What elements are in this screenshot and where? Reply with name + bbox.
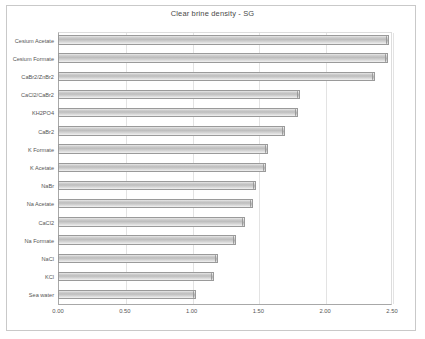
bar-row (58, 250, 392, 268)
value-tick-label: 1.00 (186, 308, 197, 314)
bar-row (58, 287, 392, 305)
category-label: K Formate (28, 147, 54, 154)
bar (58, 235, 236, 244)
bar-row (58, 178, 392, 196)
bar-row (58, 232, 392, 250)
bar-row (58, 196, 392, 214)
bar (58, 90, 300, 99)
value-tick-label: 0.50 (119, 308, 130, 314)
category-label: Na Formate (24, 238, 54, 245)
bar (58, 53, 388, 62)
bar (58, 181, 256, 190)
bar (58, 108, 298, 117)
bar-row (58, 141, 392, 159)
bar-row (58, 269, 392, 287)
bar-row (58, 214, 392, 232)
bar (58, 35, 389, 44)
bars-layer (58, 32, 392, 305)
category-label: KH2PO4 (32, 110, 54, 117)
bar-row (58, 50, 392, 68)
category-label: CaCl2 (38, 220, 54, 227)
bar (58, 254, 218, 263)
category-label: Cesium Acetate (15, 38, 54, 45)
bar (58, 163, 266, 172)
bar-row (58, 87, 392, 105)
category-label: Sea water (29, 292, 54, 299)
bar (58, 290, 196, 299)
bar-row (58, 123, 392, 141)
category-label: CaBr2/ZnBr2 (21, 74, 54, 81)
value-tick-label: 0.00 (52, 308, 63, 314)
bar-row (58, 159, 392, 177)
value-tick-label: 2.50 (386, 308, 397, 314)
bar-row (58, 105, 392, 123)
gridline (393, 33, 394, 304)
value-tick-label: 1.50 (253, 308, 264, 314)
bar (58, 217, 245, 226)
bar (58, 272, 214, 281)
bar-row (58, 68, 392, 86)
bar (58, 126, 285, 135)
bar (58, 72, 375, 81)
bar-row (58, 32, 392, 50)
category-axis-labels: Cesium AcetateCesium FormateCaBr2/ZnBr2C… (4, 32, 56, 305)
category-label: NaCl (42, 256, 54, 263)
category-label: NaBr (41, 183, 54, 190)
value-axis-labels: 0.000.501.001.502.002.50 (0, 308, 425, 322)
bar (58, 144, 268, 153)
bar (58, 199, 253, 208)
category-label: KCl (45, 274, 54, 281)
category-label: Cesium Formate (13, 56, 54, 63)
chart-title: Clear brine density - SG (0, 9, 425, 18)
category-label: CaCl2/CaBr2 (21, 92, 54, 99)
category-label: CaBr2 (38, 129, 54, 136)
value-tick-label: 2.00 (320, 308, 331, 314)
chart-figure: Clear brine density - SG Cesium AcetateC… (0, 0, 425, 339)
category-label: K Acetate (30, 165, 54, 172)
category-label: Na Acetate (27, 201, 54, 208)
